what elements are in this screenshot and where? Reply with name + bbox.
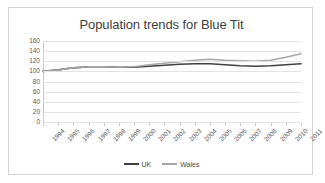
x-axis-tick-mark bbox=[73, 123, 74, 126]
x-axis-tick-label: 2010 bbox=[294, 128, 309, 143]
x-axis-tick-mark bbox=[180, 123, 181, 126]
x-axis-tick-marks bbox=[43, 123, 301, 127]
chart-title: Population trends for Blue Tit bbox=[9, 17, 314, 32]
x-axis-tick-label: 2009 bbox=[279, 128, 294, 143]
x-axis-tick-label: 1999 bbox=[127, 128, 142, 143]
x-axis-tick-label: 1998 bbox=[112, 128, 127, 143]
x-axis-tick-mark bbox=[255, 123, 256, 126]
y-axis-tick-label: 0 bbox=[12, 119, 40, 126]
y-axis-tick-label: 20 bbox=[12, 109, 40, 116]
x-axis-tick-mark bbox=[58, 123, 59, 126]
chart-frame: Population trends for Blue Tit 160140120… bbox=[8, 7, 313, 175]
x-axis-tick-label: 2004 bbox=[203, 128, 218, 143]
x-axis-tick-label: 2000 bbox=[142, 128, 157, 143]
x-axis-tick-labels: 1994199519961997199819992000200120022003… bbox=[43, 128, 301, 158]
gridline bbox=[43, 51, 301, 52]
legend-swatch-icon bbox=[124, 163, 139, 165]
legend-item-wales[interactable]: Wales bbox=[162, 161, 199, 168]
x-axis-tick-mark bbox=[195, 123, 196, 126]
gridline bbox=[43, 102, 301, 103]
x-axis-tick-mark bbox=[89, 123, 90, 126]
x-axis-tick-mark bbox=[301, 123, 302, 126]
y-axis-tick-label: 160 bbox=[12, 38, 40, 45]
x-axis-tick-label: 2002 bbox=[173, 128, 188, 143]
x-axis-tick-mark bbox=[225, 123, 226, 126]
x-axis-tick-label: 2011 bbox=[309, 128, 323, 142]
y-axis-tick-label: 120 bbox=[12, 58, 40, 65]
series-line-wales bbox=[43, 54, 301, 72]
legend-label: Wales bbox=[180, 161, 199, 168]
x-axis-tick-label: 2008 bbox=[264, 128, 279, 143]
x-axis-tick-label: 2007 bbox=[249, 128, 264, 143]
plot-area bbox=[43, 41, 301, 122]
x-axis-tick-label: 2001 bbox=[157, 128, 172, 143]
legend-swatch-icon bbox=[162, 163, 177, 165]
x-axis-tick-mark bbox=[164, 123, 165, 126]
y-axis-tick-label: 40 bbox=[12, 99, 40, 106]
x-axis-tick-mark bbox=[43, 123, 44, 126]
y-axis-tick-label: 80 bbox=[12, 79, 40, 86]
y-axis-tick-label: 140 bbox=[12, 48, 40, 55]
gridline bbox=[43, 82, 301, 83]
gridline bbox=[43, 112, 301, 113]
legend-item-uk[interactable]: UK bbox=[124, 161, 152, 168]
x-axis-tick-label: 2006 bbox=[233, 128, 248, 143]
chart-screenshot: Population trends for Blue Tit 160140120… bbox=[0, 0, 325, 183]
x-axis-tick-mark bbox=[119, 123, 120, 126]
x-axis-tick-label: 1996 bbox=[82, 128, 97, 143]
x-axis-tick-label: 1994 bbox=[51, 128, 66, 143]
x-axis-tick-mark bbox=[104, 123, 105, 126]
x-axis-tick-label: 2003 bbox=[188, 128, 203, 143]
chart-legend: UKWales bbox=[9, 158, 314, 170]
y-axis-tick-label: 60 bbox=[12, 89, 40, 96]
x-axis-tick-mark bbox=[271, 123, 272, 126]
legend-label: UK bbox=[142, 161, 152, 168]
y-axis-tick-label: 100 bbox=[12, 68, 40, 75]
y-axis-tick-labels: 160140120100806040200 bbox=[9, 41, 40, 122]
x-axis-tick-label: 2005 bbox=[218, 128, 233, 143]
gridline bbox=[43, 61, 301, 62]
x-axis-tick-mark bbox=[210, 123, 211, 126]
x-axis-tick-mark bbox=[286, 123, 287, 126]
gridline bbox=[43, 41, 301, 42]
x-axis-tick-mark bbox=[134, 123, 135, 126]
gridline bbox=[43, 92, 301, 93]
gridline bbox=[43, 71, 301, 72]
x-axis-tick-mark bbox=[240, 123, 241, 126]
x-axis-tick-label: 1997 bbox=[97, 128, 112, 143]
x-axis-tick-mark bbox=[149, 123, 150, 126]
x-axis-tick-label: 1995 bbox=[66, 128, 81, 143]
